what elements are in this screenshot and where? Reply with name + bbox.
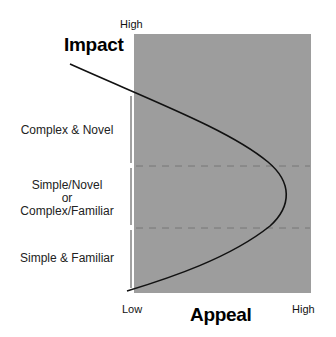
y-axis-high-label: High xyxy=(120,18,143,30)
zone-label-middle: Simple/Novel or Complex/Familiar xyxy=(4,179,130,218)
y-axis-title: Impact xyxy=(64,34,123,56)
zone-label-complex-novel: Complex & Novel xyxy=(6,124,128,137)
zone-label-middle-line3: Complex/Familiar xyxy=(4,205,130,218)
diagram-lines xyxy=(0,0,336,337)
x-axis-title: Appeal xyxy=(190,304,252,326)
x-axis-low-label: Low xyxy=(122,303,142,315)
x-axis-high-label: High xyxy=(292,303,315,315)
zone-label-simple-familiar: Simple & Familiar xyxy=(6,252,128,265)
